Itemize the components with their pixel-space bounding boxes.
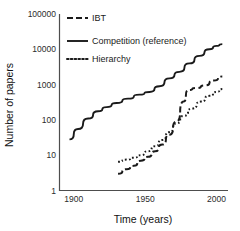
y-tick-label: 100 xyxy=(42,115,56,125)
legend-label: IBT xyxy=(92,13,107,23)
legend-label: Competition (reference) xyxy=(92,36,187,46)
y-tick-label: 100000 xyxy=(28,9,57,19)
chart-container: 110100100010000100000 190019502000 IBTCo… xyxy=(0,0,240,231)
y-axis-title: Number of papers xyxy=(3,63,15,147)
y-tick-label: 10 xyxy=(47,150,57,160)
y-tick-label: 1000 xyxy=(37,80,56,90)
y-tick-label: 10000 xyxy=(32,44,56,54)
y-tick-label: 1 xyxy=(51,186,56,196)
legend-label: Hierarchy xyxy=(92,54,131,64)
chart-background xyxy=(0,0,240,231)
x-axis-title: Time (years) xyxy=(114,213,173,225)
x-tick-label: 2000 xyxy=(207,194,226,204)
x-tick-label: 1950 xyxy=(136,194,155,204)
line-chart: 110100100010000100000 190019502000 IBTCo… xyxy=(0,0,240,231)
x-tick-label: 1900 xyxy=(64,194,83,204)
